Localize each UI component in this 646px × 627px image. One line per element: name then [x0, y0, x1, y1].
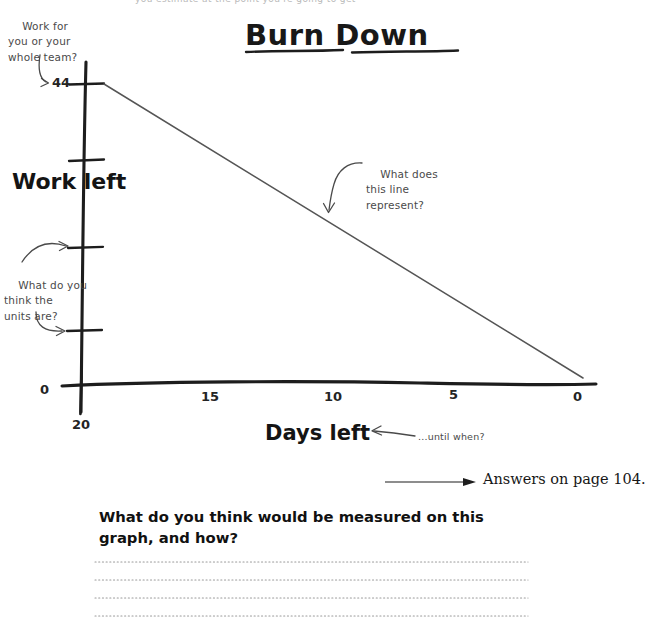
x-tick-label-5: 5: [449, 387, 458, 402]
x-tick-label-20: 20: [72, 417, 90, 432]
annotation-until-when: ...until when?: [418, 430, 485, 444]
annotation-line-represent: What does this line represent?: [366, 152, 438, 228]
y-tick-44: [69, 84, 104, 85]
annotation-units: What do you think the units are?: [4, 263, 87, 339]
annotation-work-for-team: Work for you or your whole team?: [8, 4, 77, 80]
y-axis-line: [81, 62, 86, 412]
annotation-arrowhead-line: [324, 203, 335, 213]
answers-arrowhead: [463, 478, 476, 486]
y-axis-title: Work left: [12, 170, 126, 195]
x-tick-label-0: 0: [573, 389, 582, 404]
burn-down-line: [104, 84, 583, 378]
x-tick-20: [80, 368, 81, 414]
answers-reference: Answers on page 104.: [483, 471, 646, 487]
y-tick-33: [69, 160, 104, 162]
y-origin-label: 0: [40, 382, 49, 397]
x-tick-label-10: 10: [324, 389, 342, 404]
y-tick-22: [68, 247, 103, 248]
y-tick-label-44: 44: [52, 75, 70, 90]
annotation-arrow-until-when: [374, 431, 415, 436]
annotation-arrowhead-units-upper: [59, 242, 68, 251]
x-axis-title: Days left: [265, 421, 370, 445]
worksheet-question: What do you think would be measured on t…: [99, 506, 519, 548]
x-tick-label-15: 15: [201, 389, 219, 404]
x-axis-line: [62, 382, 596, 386]
page-title: Burn Down: [245, 18, 429, 52]
annotation-arrow-units-upper: [22, 244, 66, 262]
annotation-arrowhead-until-when: [372, 426, 382, 435]
annotation-arrow-line: [329, 163, 362, 210]
clipped-header-text: you estimate at the point you're going t…: [135, 0, 356, 4]
